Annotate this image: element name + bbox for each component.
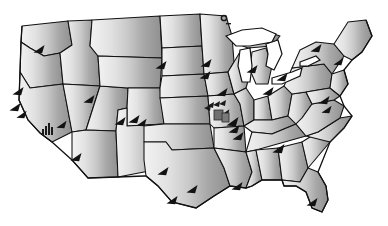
state-layer bbox=[19, 14, 372, 212]
us-map-container bbox=[0, 0, 388, 226]
state-montana bbox=[90, 16, 162, 58]
lake-huron bbox=[266, 40, 282, 70]
state-wyoming bbox=[98, 56, 162, 88]
us-map-svg bbox=[0, 0, 388, 226]
marker-california-north[interactable] bbox=[9, 103, 20, 111]
marker-california-central[interactable] bbox=[16, 111, 26, 119]
state-northdakota bbox=[160, 14, 202, 48]
state-kansas bbox=[160, 96, 210, 124]
state-southdakota bbox=[162, 46, 204, 76]
state-nebraska bbox=[160, 74, 208, 98]
state-arizona bbox=[72, 130, 118, 178]
